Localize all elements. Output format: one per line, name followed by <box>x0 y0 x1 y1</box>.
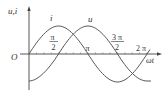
tick-label-pi-over-2: π 2 <box>50 33 59 53</box>
svg-text:2: 2 <box>115 43 119 52</box>
svg-text:3 π: 3 π <box>112 33 122 42</box>
x-axis-arrow-icon <box>157 52 162 55</box>
svg-text:π: π <box>51 33 55 42</box>
tick-label-pi: π <box>86 44 90 53</box>
origin-label: O <box>11 52 18 62</box>
x-axis-label: ωt <box>146 56 155 65</box>
curve-u-label: u <box>88 14 93 24</box>
tick-label-3pi-over-2: 3 π 2 <box>111 33 124 53</box>
curve-i-label: i <box>50 13 53 23</box>
svg-text:2: 2 <box>52 43 56 52</box>
y-axis-arrow-icon <box>27 6 30 11</box>
tick-label-2pi: 2 π <box>136 44 146 53</box>
y-axis-label: u,i <box>8 6 18 16</box>
phase-diagram: u,i O i u ωt π 2 π 3 π 2 2 π <box>0 0 165 93</box>
